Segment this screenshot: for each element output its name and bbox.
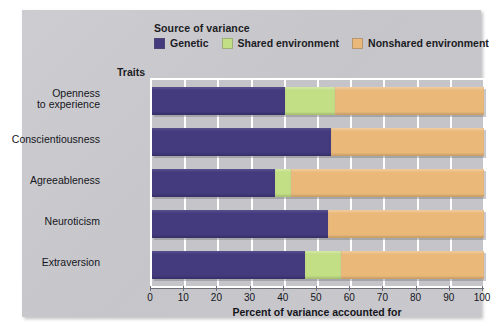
bar-segment-genetic[interactable] bbox=[152, 169, 275, 197]
y-axis-label-line: to experience bbox=[0, 99, 100, 111]
bar-segment-nonshared[interactable] bbox=[291, 169, 484, 197]
x-axis-tick bbox=[382, 286, 383, 291]
bar-segment-nonshared[interactable] bbox=[331, 128, 484, 156]
legend-items: Genetic Shared environment Nonshared env… bbox=[154, 37, 484, 49]
x-axis-tick-label: 70 bbox=[367, 292, 397, 303]
legend-item-genetic: Genetic bbox=[154, 37, 209, 49]
x-axis-tick bbox=[216, 286, 217, 291]
x-axis-tick-label: 0 bbox=[135, 292, 165, 303]
x-axis-tick bbox=[316, 286, 317, 291]
bar-segment-nonshared[interactable] bbox=[328, 210, 484, 238]
x-axis-title: Percent of variance accounted for bbox=[150, 306, 484, 318]
bar-segment-genetic[interactable] bbox=[152, 251, 305, 279]
y-axis-label: Neuroticism bbox=[0, 216, 100, 228]
figure: Source of variance Genetic Shared enviro… bbox=[0, 0, 504, 332]
bar-row[interactable] bbox=[152, 251, 484, 279]
legend-label-nonshared-environment: Nonshared environment bbox=[368, 37, 489, 49]
bar-segment-shared[interactable] bbox=[285, 87, 335, 115]
y-axis-label-line: Conscientiousness bbox=[0, 134, 100, 146]
y-axis-label: Conscientiousness bbox=[0, 134, 100, 146]
legend-title: Source of variance bbox=[154, 22, 484, 34]
bar-segment-genetic[interactable] bbox=[152, 87, 285, 115]
legend-item-nonshared-environment: Nonshared environment bbox=[352, 37, 489, 49]
legend-label-genetic: Genetic bbox=[170, 37, 209, 49]
bar-row[interactable] bbox=[152, 87, 484, 115]
y-axis-caption: Traits bbox=[77, 66, 145, 78]
x-axis-tick-label: 30 bbox=[235, 292, 265, 303]
legend: Source of variance Genetic Shared enviro… bbox=[154, 22, 484, 62]
bar-segment-nonshared[interactable] bbox=[341, 251, 484, 279]
x-axis-tick bbox=[482, 286, 483, 291]
x-axis-tick bbox=[449, 286, 450, 291]
x-axis-tick bbox=[416, 286, 417, 291]
y-axis-label: Opennessto experience bbox=[0, 88, 100, 111]
x-axis-tick-label: 90 bbox=[434, 292, 464, 303]
y-axis-label: Extraversion bbox=[0, 257, 100, 269]
bar-row[interactable] bbox=[152, 210, 484, 238]
x-axis-tick-label: 50 bbox=[301, 292, 331, 303]
bar-segment-genetic[interactable] bbox=[152, 128, 331, 156]
x-axis-tick-label: 40 bbox=[268, 292, 298, 303]
bar-row[interactable] bbox=[152, 128, 484, 156]
legend-swatch-genetic-icon bbox=[154, 38, 165, 49]
legend-swatch-nonshared-environment-icon bbox=[352, 38, 363, 49]
legend-item-shared-environment: Shared environment bbox=[222, 37, 340, 49]
x-axis-tick bbox=[250, 286, 251, 291]
x-axis-tick bbox=[150, 286, 151, 291]
bar-segment-shared[interactable] bbox=[305, 251, 342, 279]
y-axis-label-line: Extraversion bbox=[0, 257, 100, 269]
x-axis-line bbox=[150, 288, 484, 289]
y-axis-label: Agreeableness bbox=[0, 175, 100, 187]
legend-swatch-shared-environment-icon bbox=[222, 38, 233, 49]
bar-row[interactable] bbox=[152, 169, 484, 197]
bar-segment-genetic[interactable] bbox=[152, 210, 328, 238]
x-axis-tick bbox=[349, 286, 350, 291]
chart-panel: Source of variance Genetic Shared enviro… bbox=[22, 10, 481, 317]
plot-area bbox=[150, 78, 486, 288]
x-axis-tick-label: 80 bbox=[401, 292, 431, 303]
x-axis-tick-label: 20 bbox=[201, 292, 231, 303]
x-axis-tick-label: 60 bbox=[334, 292, 364, 303]
bar-segment-nonshared[interactable] bbox=[335, 87, 484, 115]
bar-segment-shared[interactable] bbox=[275, 169, 292, 197]
x-axis-tick-label: 10 bbox=[168, 292, 198, 303]
legend-label-shared-environment: Shared environment bbox=[238, 37, 340, 49]
y-axis-label-line: Neuroticism bbox=[0, 216, 100, 228]
x-axis-tick-label: 100 bbox=[467, 292, 497, 303]
x-axis-tick bbox=[183, 286, 184, 291]
y-axis-label-line: Agreeableness bbox=[0, 175, 100, 187]
x-axis-tick bbox=[283, 286, 284, 291]
